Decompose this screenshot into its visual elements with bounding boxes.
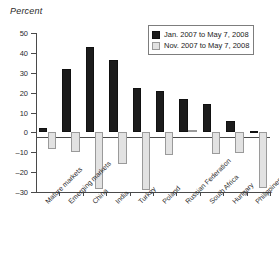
y-tick	[31, 33, 36, 34]
bar	[179, 99, 187, 132]
y-axis-title: Percent	[10, 6, 42, 16]
y-tick-label: 30	[6, 68, 28, 77]
category-label: Hungary	[231, 181, 255, 205]
category-label: Emerging markets	[67, 160, 112, 205]
category-label: Poland	[161, 185, 181, 205]
category-label: Turkey	[137, 185, 157, 205]
bar	[250, 131, 258, 133]
y-tick	[31, 93, 36, 94]
bar	[62, 69, 70, 133]
bar	[203, 104, 211, 133]
y-tick-label: –30	[6, 188, 28, 197]
bar	[226, 121, 234, 133]
bar	[259, 132, 267, 188]
y-tick	[31, 152, 36, 153]
legend-label: Nov. 2007 to May 7, 2008	[164, 41, 249, 50]
bar	[165, 132, 173, 155]
y-tick-label: 10	[6, 108, 28, 117]
y-tick-label: 20	[6, 88, 28, 97]
bar	[86, 47, 94, 132]
bar	[142, 132, 150, 190]
bar	[39, 128, 47, 132]
bar	[188, 130, 196, 133]
bar	[118, 132, 126, 164]
y-tick	[31, 113, 36, 114]
y-tick	[31, 172, 36, 173]
y-tick	[31, 192, 36, 193]
bar	[133, 88, 141, 133]
y-tick-label: 50	[6, 29, 28, 38]
y-tick-label: –10	[6, 148, 28, 157]
bar	[235, 132, 243, 152]
legend-item: Nov. 2007 to May 7, 2008	[152, 40, 249, 51]
legend-swatch-icon	[152, 31, 160, 39]
legend-swatch-icon	[152, 42, 160, 50]
bar	[109, 60, 117, 133]
chart-legend: Jan. 2007 to May 7, 2008Nov. 2007 to May…	[148, 25, 254, 55]
y-tick	[31, 53, 36, 54]
chart-figure: Percent 50403020100–10–20–30 Mature mark…	[0, 0, 279, 266]
legend-label: Jan. 2007 to May 7, 2008	[164, 30, 249, 39]
y-tick	[31, 132, 36, 133]
bar	[71, 132, 79, 152]
bar	[212, 132, 220, 153]
y-tick	[31, 73, 36, 74]
bar	[48, 132, 56, 149]
category-label: Russian Federation	[184, 157, 232, 205]
y-tick-label: 40	[6, 48, 28, 57]
category-label: China	[91, 187, 109, 205]
y-axis-line	[36, 33, 37, 192]
legend-item: Jan. 2007 to May 7, 2008	[152, 29, 249, 40]
y-tick-label: 0	[6, 128, 28, 137]
bar	[156, 91, 164, 133]
y-tick-label: –20	[6, 168, 28, 177]
